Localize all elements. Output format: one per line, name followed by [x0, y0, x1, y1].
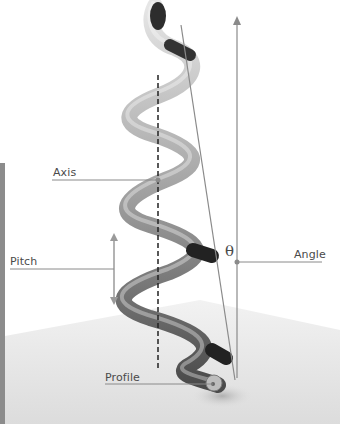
helix-illustration	[0, 0, 340, 424]
angle-label: Angle	[294, 249, 326, 260]
pitch-label: Pitch	[10, 256, 37, 267]
theta-symbol: θ	[225, 244, 234, 259]
left-edge-bar	[0, 163, 5, 424]
profile-label: Profile	[105, 372, 140, 383]
arrow-up-icon	[233, 16, 241, 25]
axis-label: Axis	[53, 167, 76, 178]
helix-diagram: Axis Pitch Angle θ Profile	[0, 0, 340, 424]
